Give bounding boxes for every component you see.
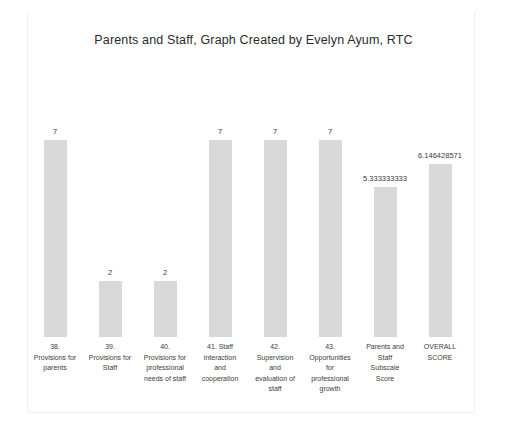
x-axis-label-line: 41. Staff [193,342,247,353]
bar [154,281,177,337]
x-axis-label: 38.Provisions forparents [28,342,82,374]
page-border-right [474,12,475,412]
x-axis-label-line: growth [303,384,357,395]
x-axis-label: Parents andStaffSubscaleScore [358,342,412,384]
x-axis-label-line: for [303,363,357,374]
chart-screenshot: Parents and Staff, Graph Created by Evel… [0,0,507,439]
bar [319,140,342,337]
x-axis-label-line: 42. [248,342,302,353]
x-axis-labels: 38.Provisions forparents39.Provisions fo… [28,342,474,412]
x-axis-label-line: Provisions for [83,353,137,364]
x-axis-label: OVERALLSCORE [413,342,467,363]
bar [429,164,452,337]
bar-group: 7 [28,100,82,337]
bar-value-label: 2 [83,268,137,277]
x-axis-label-line: Staff [358,353,412,364]
bar-value-label: 5.333333333 [358,174,412,183]
bar-group: 2 [138,100,192,337]
x-axis-label-line: and [248,363,302,374]
x-axis-label-line: Parents and [358,342,412,353]
x-axis-label-line: 39. [83,342,137,353]
plot-area: 7227775.3333333336.146428571 [28,100,474,337]
bar-group: 2 [83,100,137,337]
bar-value-label: 7 [28,127,82,136]
x-axis-label-line: staff [248,384,302,395]
bar-value-label: 7 [193,127,247,136]
x-axis-label: 42.Supervisionandevaluation ofstaff [248,342,302,395]
bar-value-label: 7 [248,127,302,136]
bar [209,140,232,337]
x-axis-label-line: cooperation [193,374,247,385]
x-axis-label-line: Subscale [358,363,412,374]
x-axis-label-line: SCORE [413,353,467,364]
x-axis-label-line: and [193,363,247,374]
chart-title: Parents and Staff, Graph Created by Evel… [0,33,507,47]
x-axis-label-line: OVERALL [413,342,467,353]
x-axis-label-line: Supervision [248,353,302,364]
x-axis-label-line: professional [303,374,357,385]
bar-group: 7 [303,100,357,337]
bar-group: 6.146428571 [413,100,467,337]
bar [44,140,67,337]
bar-group: 7 [193,100,247,337]
page-border-bottom [27,412,475,413]
x-axis-label-line: interaction [193,353,247,364]
x-axis-label-line: 38. [28,342,82,353]
x-axis-label-line: 43. [303,342,357,353]
x-axis-label-line: needs of staff [138,374,192,385]
bar-value-label: 7 [303,127,357,136]
x-axis-label: 41. Staffinteractionandcooperation [193,342,247,384]
bar-group: 7 [248,100,302,337]
x-axis-label-line: Provisions for [28,353,82,364]
x-axis-label: 40.Provisions forprofessionalneeds of st… [138,342,192,384]
bar [374,187,397,337]
x-axis-label-line: Staff [83,363,137,374]
bar-value-label: 2 [138,268,192,277]
x-axis-label: 43.Opportunitiesforprofessionalgrowth [303,342,357,395]
x-axis-label-line: Opportunities [303,353,357,364]
x-axis-label-line: professional [138,363,192,374]
bar-value-label: 6.146428571 [413,151,467,160]
x-axis-label-line: evaluation of [248,374,302,385]
x-axis-label-line: Provisions for [138,353,192,364]
x-axis-label-line: Score [358,374,412,385]
bar [264,140,287,337]
bar-group: 5.333333333 [358,100,412,337]
x-axis-label-line: 40. [138,342,192,353]
x-axis-label-line: parents [28,363,82,374]
x-axis-label: 39.Provisions forStaff [83,342,137,374]
bar [99,281,122,337]
